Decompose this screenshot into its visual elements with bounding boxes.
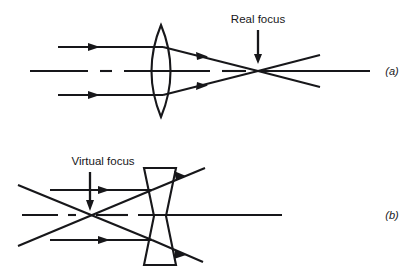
virtual-extension-upper [18, 190, 152, 246]
figure-root: Real focus (a) [0, 0, 416, 274]
panel-label-b: (b) [385, 209, 399, 221]
refracted-ray-a-lower [163, 71, 320, 95]
panel-b: Virtual focus (b) [18, 155, 399, 265]
panel-label-a: (a) [385, 65, 399, 77]
incoming-ray-a-lower [58, 91, 163, 99]
refracted-ray-a-upper [163, 47, 320, 71]
diverged-ray-b-upper [152, 168, 205, 190]
virtual-focus-label: Virtual focus [71, 155, 134, 167]
optics-diagram: Real focus (a) [0, 0, 416, 274]
incoming-ray-a-upper [58, 43, 163, 51]
panel-a: Real focus (a) [30, 13, 399, 117]
real-focus-label: Real focus [231, 13, 286, 25]
diverged-ray-b-lower [152, 240, 203, 262]
incoming-ray-b-upper [50, 186, 152, 194]
real-focus-annotation: Real focus [231, 13, 286, 64]
virtual-extension-lower [18, 185, 152, 240]
incoming-ray-b-lower [50, 236, 152, 244]
virtual-focus-annotation: Virtual focus [71, 155, 134, 211]
